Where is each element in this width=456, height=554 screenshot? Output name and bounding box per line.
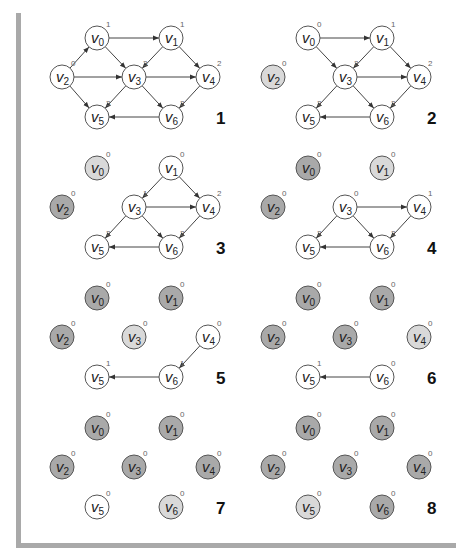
indegree-count: 1 — [180, 20, 185, 29]
indegree-count: 0 — [143, 449, 148, 458]
node-v5: v53 — [85, 99, 111, 129]
indegree-count: 2 — [217, 189, 222, 198]
node-v6: v62 — [159, 229, 185, 259]
indegree-count: 2 — [354, 59, 359, 68]
node-v3: v33 — [122, 59, 148, 89]
node-v0: v00 — [85, 410, 111, 440]
indegree-count: 0 — [428, 449, 433, 458]
panel-step-7: v00v10v20v30v40v50v607 — [50, 410, 225, 519]
node-v5: v52 — [85, 229, 111, 259]
node-v2: v20 — [50, 59, 76, 89]
indegree-count: 2 — [391, 99, 396, 108]
step-number-label: 4 — [427, 239, 437, 258]
node-v5: v51 — [85, 359, 111, 389]
node-v6: v62 — [370, 229, 396, 259]
indegree-count: 0 — [391, 359, 396, 368]
node-v6: v60 — [159, 489, 185, 519]
indegree-count: 1 — [106, 20, 111, 29]
indegree-count: 0 — [282, 449, 287, 458]
indegree-count: 0 — [180, 280, 185, 289]
indegree-count: 2 — [180, 229, 185, 238]
indegree-count: 0 — [180, 410, 185, 419]
panel-step-6: v00v10v20v30v40v51v606 — [261, 280, 436, 389]
indegree-count: 2 — [428, 59, 433, 68]
step-number-label: 8 — [427, 499, 436, 518]
indegree-count: 0 — [217, 319, 222, 328]
node-v6: v60 — [370, 359, 396, 389]
indegree-count: 0 — [282, 189, 287, 198]
node-v6: v62 — [159, 99, 185, 129]
indegree-count: 1 — [317, 359, 322, 368]
step-number-label: 1 — [216, 109, 225, 128]
node-v4: v40 — [407, 449, 433, 479]
edge-v0-to-v3 — [316, 47, 336, 69]
panel-step-5: v00v10v20v30v40v51v615 — [50, 280, 225, 389]
node-v1: v10 — [159, 280, 185, 310]
node-v0: v00 — [85, 150, 111, 180]
node-v3: v30 — [122, 449, 148, 479]
node-v3: v32 — [333, 59, 359, 89]
indegree-count: 0 — [106, 280, 111, 289]
node-v0: v00 — [296, 280, 322, 310]
edge-v3-to-v6 — [142, 216, 163, 238]
node-v0: v01 — [85, 20, 111, 50]
step-number-label: 7 — [216, 499, 225, 518]
node-v0: v00 — [296, 20, 322, 50]
indegree-count: 3 — [106, 99, 111, 108]
panel-step-4: v00v10v20v30v41v52v624 — [261, 150, 437, 259]
node-v2: v20 — [50, 319, 76, 349]
edge-v3-to-v6 — [142, 86, 163, 108]
indegree-count: 0 — [143, 319, 148, 328]
panel-step-8: v00v10v20v30v40v50v608 — [261, 410, 436, 519]
node-v2: v20 — [261, 189, 287, 219]
node-v6: v61 — [159, 359, 185, 389]
node-v1: v10 — [370, 150, 396, 180]
node-v5: v50 — [296, 489, 322, 519]
node-v1: v10 — [159, 410, 185, 440]
node-v1: v10 — [370, 410, 396, 440]
indegree-count: 0 — [317, 489, 322, 498]
node-v4: v42 — [196, 189, 222, 219]
node-v1: v11 — [370, 20, 396, 50]
indegree-count: 2 — [317, 229, 322, 238]
node-v4: v40 — [407, 319, 433, 349]
indegree-count: 0 — [71, 189, 76, 198]
node-v3: v30 — [122, 319, 148, 349]
panel-step-3: v00v10v20v31v42v52v623 — [50, 150, 225, 259]
node-v4: v42 — [407, 59, 433, 89]
indegree-count: 0 — [282, 319, 287, 328]
indegree-count: 2 — [217, 59, 222, 68]
edge-v1-to-v4 — [179, 47, 199, 69]
panel-step-1: v01v11v20v33v42v53v621 — [50, 20, 225, 129]
node-v0: v00 — [296, 150, 322, 180]
node-v0: v00 — [85, 280, 111, 310]
indegree-count: 1 — [143, 189, 148, 198]
indegree-count: 0 — [391, 410, 396, 419]
node-v5: v52 — [296, 99, 322, 129]
indegree-count: 0 — [217, 449, 222, 458]
node-v3: v30 — [333, 449, 359, 479]
step-number-label: 6 — [427, 369, 436, 388]
node-v3: v31 — [122, 189, 148, 219]
node-v4: v40 — [196, 449, 222, 479]
node-v3: v30 — [333, 319, 359, 349]
panel-step-2: v00v11v20v32v42v52v622 — [261, 20, 436, 129]
edge-v3-to-v6 — [353, 86, 374, 108]
indegree-count: 2 — [106, 229, 111, 238]
node-v1: v10 — [370, 280, 396, 310]
indegree-count: 3 — [143, 59, 148, 68]
indegree-count: 0 — [180, 489, 185, 498]
node-v5: v51 — [296, 359, 322, 389]
node-v4: v40 — [196, 319, 222, 349]
node-v5: v52 — [296, 229, 322, 259]
indegree-count: 0 — [71, 449, 76, 458]
indegree-count: 0 — [317, 150, 322, 159]
node-v2: v20 — [50, 189, 76, 219]
indegree-count: 0 — [428, 319, 433, 328]
indegree-count: 2 — [180, 99, 185, 108]
step-number-label: 2 — [427, 109, 436, 128]
indegree-count: 0 — [317, 20, 322, 29]
node-v4: v42 — [196, 59, 222, 89]
node-v2: v20 — [261, 449, 287, 479]
indegree-count: 0 — [354, 189, 359, 198]
